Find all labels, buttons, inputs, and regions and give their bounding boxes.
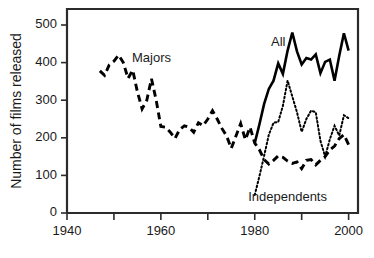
y-axis-title: Number of films released [8,33,24,189]
x-tick-label-1960: 1960 [146,223,175,238]
y-tick-label-500: 500 [35,16,57,31]
y-tick-label-300: 300 [35,92,57,107]
y-tick-label-400: 400 [35,54,57,69]
figure-container: 0100200300400500 1940196019802000 Number… [0,0,374,258]
y-tick-label-200: 200 [35,129,57,144]
y-tick-label-100: 100 [35,167,57,182]
x-tick-label-1940: 1940 [53,223,82,238]
annotation-independents: Independents [248,189,327,204]
annotation-majors: Majors [132,50,172,65]
y-tick-label-0: 0 [50,204,57,219]
films-released-line-chart: 0100200300400500 1940196019802000 Number… [0,0,374,258]
x-tick-label-2000: 2000 [334,223,363,238]
x-tick-label-1980: 1980 [240,223,269,238]
annotation-all: All [271,34,286,49]
